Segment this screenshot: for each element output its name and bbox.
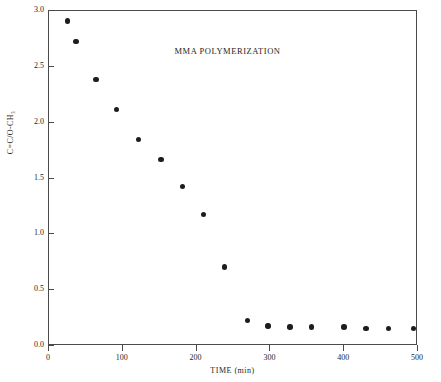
y-tick-label: 2.5 [4, 61, 44, 70]
y-tick-mark [48, 10, 54, 11]
y-tick-mark [48, 233, 54, 234]
y-tick-label: 2.0 [4, 117, 44, 126]
x-tick-label: 100 [102, 353, 142, 362]
data-point [245, 318, 250, 323]
x-tick-label: 500 [397, 353, 437, 362]
y-tick-label: 1.0 [4, 228, 44, 237]
y-tick-mark [48, 122, 54, 123]
x-tick-mark [122, 345, 123, 351]
data-point [73, 39, 78, 44]
y-tick-label: 0.0 [4, 340, 44, 349]
x-tick-label: 200 [176, 353, 216, 362]
data-point [386, 326, 391, 331]
data-point [158, 157, 163, 162]
data-point [93, 77, 98, 82]
data-point [363, 326, 368, 331]
y-axis-label: C=C/O-CH₃ [6, 93, 15, 173]
x-tick-mark [196, 345, 197, 351]
x-tick-label: 0 [28, 353, 68, 362]
x-tick-mark [48, 345, 49, 351]
data-point [265, 323, 270, 328]
y-tick-mark [48, 66, 54, 67]
chart-figure: MMA POLYMERIZATION TIME (min) C=C/O-CH₃ … [0, 0, 441, 382]
chart-title: MMA POLYMERIZATION [0, 46, 441, 56]
x-tick-label: 300 [249, 353, 289, 362]
data-point [287, 324, 292, 329]
data-point [411, 326, 416, 331]
y-tick-label: 3.0 [4, 5, 44, 14]
y-tick-label: 0.5 [4, 284, 44, 293]
data-point [341, 324, 346, 329]
x-tick-mark [269, 345, 270, 351]
plot-area [48, 10, 417, 345]
chart-title-text: MMA POLYMERIZATION [160, 46, 280, 56]
data-point [222, 264, 227, 269]
y-tick-mark [48, 289, 54, 290]
y-tick-label: 1.5 [4, 173, 44, 182]
x-tick-label: 400 [323, 353, 363, 362]
data-point [180, 184, 185, 189]
x-tick-mark [417, 345, 418, 351]
y-tick-mark [48, 178, 54, 179]
data-point [65, 18, 70, 23]
x-axis-label: TIME (min) [48, 366, 417, 375]
data-point [309, 324, 314, 329]
x-tick-mark [343, 345, 344, 351]
